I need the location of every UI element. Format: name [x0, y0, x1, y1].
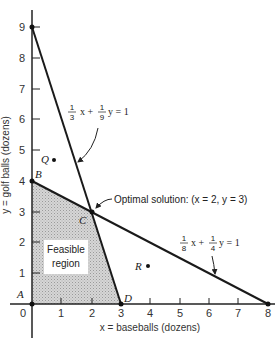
svg-text:y = 1: y = 1 [219, 237, 240, 248]
y-axis-label: y = golf balls (dozens) [0, 116, 11, 214]
svg-text:3: 3 [19, 206, 25, 218]
svg-text:4: 4 [147, 307, 153, 319]
intercept-8-dot [266, 302, 271, 307]
point-r-dot [146, 264, 150, 268]
lp-diagram: Feasible region 0 1 2 3 4 5 6 7 8 x = ba… [0, 0, 278, 340]
svg-text:6: 6 [19, 113, 25, 125]
y-tick-labels: 1 2 3 4 5 6 7 8 9 [19, 21, 25, 279]
x-axis-label: x = baseballs (dozens) [100, 322, 200, 333]
optimal-solution-label: Optimal solution: (x = 2, y = 3) [114, 194, 247, 205]
svg-text:2: 2 [89, 307, 95, 319]
svg-text:3: 3 [118, 307, 124, 319]
svg-text:x +: x + [80, 106, 94, 117]
feasible-label-line1: Feasible [47, 244, 85, 255]
svg-text:4: 4 [211, 244, 216, 253]
equation-2-arrow [212, 256, 215, 274]
point-d-dot [119, 302, 124, 307]
svg-text:3: 3 [70, 113, 75, 122]
svg-text:x +: x + [191, 237, 205, 248]
svg-text:1: 1 [58, 307, 64, 319]
svg-text:8: 8 [182, 244, 187, 253]
point-b-label: B [35, 168, 42, 180]
equation-1-arrow [78, 128, 98, 162]
point-r-label: R [134, 260, 142, 272]
svg-text:2: 2 [19, 236, 25, 248]
intercept-9-dot [30, 25, 35, 30]
point-b-dot [30, 179, 35, 184]
svg-text:y = 1: y = 1 [108, 106, 129, 117]
svg-text:4: 4 [19, 175, 25, 187]
point-c-label: C [79, 214, 87, 226]
svg-text:1: 1 [70, 103, 75, 112]
svg-text:1: 1 [100, 103, 105, 112]
point-d-label: D [123, 292, 132, 304]
svg-text:5: 5 [177, 307, 183, 319]
point-q-label: Q [41, 153, 49, 165]
svg-text:8: 8 [19, 52, 25, 64]
optimal-arrow [96, 199, 112, 208]
svg-text:0: 0 [20, 307, 26, 319]
point-q-dot [52, 158, 56, 162]
equation-2-label: 1 8 x + 1 4 y = 1 [180, 234, 240, 253]
equation-1-label: 1 3 x + 1 9 y = 1 [68, 103, 129, 122]
svg-text:5: 5 [19, 144, 25, 156]
svg-text:1: 1 [211, 234, 216, 243]
feasible-label-line2: region [52, 258, 80, 269]
svg-text:7: 7 [19, 83, 25, 95]
svg-text:9: 9 [19, 21, 25, 33]
svg-text:8: 8 [265, 307, 271, 319]
svg-text:1: 1 [19, 267, 25, 279]
x-tick-labels: 0 1 2 3 4 5 6 7 8 [20, 307, 271, 319]
point-c-dot [90, 210, 95, 215]
svg-text:9: 9 [100, 113, 105, 122]
point-a-label: A [16, 288, 24, 300]
svg-text:6: 6 [206, 307, 212, 319]
svg-text:1: 1 [182, 234, 187, 243]
point-a-dot [30, 302, 35, 307]
svg-text:7: 7 [235, 307, 241, 319]
